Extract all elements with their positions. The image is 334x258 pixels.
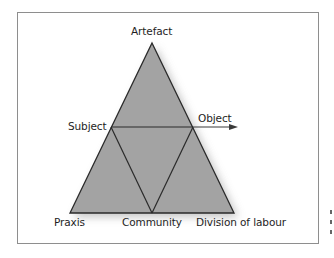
label-division-of-labour: Division of labour <box>196 217 286 228</box>
label-object: Object <box>198 113 232 124</box>
arrowhead-icon <box>229 124 238 130</box>
label-community: Community <box>122 217 182 228</box>
label-praxis: Praxis <box>54 217 85 228</box>
label-subject: Subject <box>68 121 107 132</box>
cropped-caption-fragment <box>330 210 334 246</box>
label-artefact: Artefact <box>131 26 172 37</box>
